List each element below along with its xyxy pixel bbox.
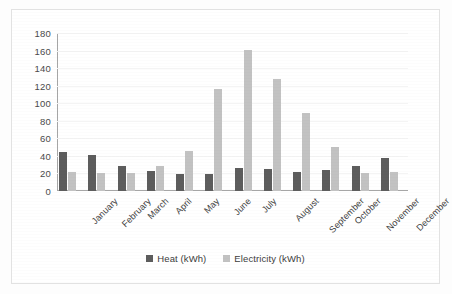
bar-group xyxy=(203,33,232,191)
bar-electricity[interactable] xyxy=(273,79,281,191)
bar-heat[interactable] xyxy=(293,172,301,191)
bar-electricity[interactable] xyxy=(127,173,135,191)
bar-heat[interactable] xyxy=(118,166,126,191)
bar-group xyxy=(233,33,262,191)
bar-electricity[interactable] xyxy=(302,113,310,191)
legend-label: Heat (kWh) xyxy=(157,253,206,264)
bar-group xyxy=(57,33,86,191)
bar-electricity[interactable] xyxy=(156,166,164,191)
plot-wrapper: 180160140120100806040200 JanuaryFebruary… xyxy=(57,33,408,191)
y-axis-tick-label: 0 xyxy=(46,186,51,197)
y-axis-tick-label: 20 xyxy=(40,168,51,179)
chart-container: 180160140120100806040200 JanuaryFebruary… xyxy=(11,9,440,284)
bar-heat[interactable] xyxy=(264,169,272,191)
bar-electricity[interactable] xyxy=(244,50,252,191)
bar-group xyxy=(116,33,145,191)
bar-group xyxy=(379,33,408,191)
bar-electricity[interactable] xyxy=(214,89,222,191)
legend-swatch-icon xyxy=(146,255,153,262)
y-axis-tick-label: 100 xyxy=(35,98,51,109)
y-axis-tick-label: 40 xyxy=(40,150,51,161)
bar-electricity[interactable] xyxy=(390,172,398,191)
x-axis-tick-label: July xyxy=(260,196,279,215)
bar-group xyxy=(291,33,320,191)
legend-item-electricity[interactable]: Electricity (kWh) xyxy=(223,253,304,264)
bar-electricity[interactable] xyxy=(97,173,105,191)
x-axis-tick-label: April xyxy=(173,196,193,216)
x-axis-tick-label: June xyxy=(232,196,253,217)
bar-group xyxy=(350,33,379,191)
bar-electricity[interactable] xyxy=(331,147,339,191)
legend-item-heat[interactable]: Heat (kWh) xyxy=(146,253,206,264)
y-axis-tick-label: 60 xyxy=(40,133,51,144)
chart-legend: Heat (kWh)Electricity (kWh) xyxy=(12,253,439,264)
legend-swatch-icon xyxy=(223,255,230,262)
bar-group xyxy=(174,33,203,191)
x-axis-tick-label: January xyxy=(89,196,119,226)
bar-heat[interactable] xyxy=(88,155,96,191)
bar-group xyxy=(86,33,115,191)
y-axis-tick-label: 180 xyxy=(35,28,51,39)
y-axis-tick-label: 80 xyxy=(40,115,51,126)
bar-heat[interactable] xyxy=(322,170,330,191)
bar-heat[interactable] xyxy=(147,171,155,191)
y-axis-tick-label: 160 xyxy=(35,45,51,56)
bar-heat[interactable] xyxy=(59,152,67,191)
bar-heat[interactable] xyxy=(176,174,184,191)
bar-heat[interactable] xyxy=(381,158,389,191)
x-axis-tick-label: May xyxy=(202,196,221,215)
bar-electricity[interactable] xyxy=(68,172,76,191)
bar-heat[interactable] xyxy=(235,168,243,191)
bar-heat[interactable] xyxy=(205,174,213,191)
legend-label: Electricity (kWh) xyxy=(234,253,304,264)
bar-heat[interactable] xyxy=(352,166,360,191)
bar-group xyxy=(262,33,291,191)
bar-electricity[interactable] xyxy=(361,173,369,191)
bar-group xyxy=(145,33,174,191)
bar-electricity[interactable] xyxy=(185,151,193,191)
x-axis-tick-label: August xyxy=(293,196,320,223)
bar-group xyxy=(320,33,349,191)
y-axis-tick-label: 140 xyxy=(35,63,51,74)
y-axis-tick-label: 120 xyxy=(35,80,51,91)
